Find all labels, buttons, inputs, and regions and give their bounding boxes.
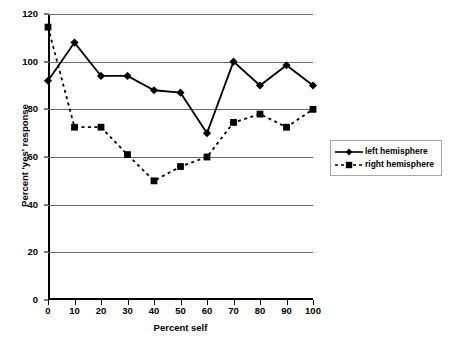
x-tick-label: 80 (255, 305, 266, 316)
legend-item-left-hemisphere: left hemisphere (334, 145, 437, 158)
x-tick-label: 100 (305, 305, 321, 316)
data-point-marker (257, 111, 264, 118)
x-tick-mark (313, 300, 314, 305)
data-point-marker (124, 151, 131, 158)
data-point-marker (230, 119, 237, 126)
x-tick-mark (260, 300, 261, 305)
x-axis-title: Percent self (48, 322, 313, 333)
plot-area (48, 14, 313, 300)
x-tick-mark (234, 300, 235, 305)
legend-label-right-hemisphere: right hemisphere (364, 160, 434, 169)
y-tick-label: 20 (27, 248, 38, 258)
legend-symbol-dashed-square-icon (334, 159, 364, 171)
x-tick-label: 50 (175, 305, 186, 316)
y-tick-label: 120 (22, 9, 38, 19)
data-point-marker (310, 106, 317, 113)
data-point-marker (45, 24, 52, 31)
chart-container: 020406080100120 Percent 'yes' response 0… (0, 0, 450, 344)
x-tick-mark (48, 300, 49, 305)
x-tick-label: 30 (122, 305, 133, 316)
y-tick-label: 100 (22, 57, 38, 67)
x-tick-label: 60 (202, 305, 213, 316)
series-line-left-hemisphere (48, 43, 313, 134)
x-tick-mark (181, 300, 182, 305)
x-tick-mark (207, 300, 208, 305)
legend-symbol-solid-diamond-icon (334, 146, 364, 158)
series-line-right-hemisphere (48, 27, 313, 181)
data-point-marker (98, 124, 105, 131)
data-point-marker (71, 124, 78, 131)
data-point-marker (177, 163, 184, 170)
data-point-marker (123, 72, 131, 80)
data-series-layer (48, 14, 313, 300)
y-tick-label: 0 (33, 295, 38, 305)
x-tick-mark (101, 300, 102, 305)
legend-label-left-hemisphere: left hemisphere (364, 147, 428, 156)
legend-item-right-hemisphere: right hemisphere (334, 158, 437, 171)
x-tick-mark (128, 300, 129, 305)
x-tick-mark (154, 300, 155, 305)
data-point-marker (204, 154, 211, 161)
data-point-marker (283, 124, 290, 131)
x-tick-label: 10 (69, 305, 80, 316)
x-tick-mark (75, 300, 76, 305)
x-tick-label: 70 (228, 305, 239, 316)
x-tick-label: 90 (281, 305, 292, 316)
x-tick-label: 40 (149, 305, 160, 316)
y-axis-title: Percent 'yes' response (19, 76, 30, 236)
x-tick-mark (287, 300, 288, 305)
legend: left hemisphere right hemisphere (330, 140, 442, 176)
data-point-marker (151, 177, 158, 184)
x-tick-label: 20 (96, 305, 107, 316)
x-tick-label: 0 (45, 305, 50, 316)
data-point-marker (150, 86, 158, 94)
